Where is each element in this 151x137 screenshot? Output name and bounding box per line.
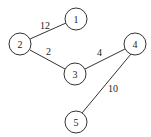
node-label-5: 5 — [74, 117, 79, 128]
edge-weight-4-5: 10 — [108, 83, 118, 94]
edge-4-5 — [82, 54, 131, 113]
edge-weight-3-4: 4 — [97, 47, 102, 58]
node-4: 4 — [124, 33, 146, 55]
node-label-3: 3 — [73, 69, 78, 80]
node-label-4: 4 — [133, 39, 138, 50]
node-3: 3 — [64, 63, 86, 85]
edge-3-4 — [85, 49, 125, 69]
edge-weight-2-3: 2 — [46, 46, 51, 57]
node-2: 2 — [9, 33, 31, 55]
node-label-2: 2 — [18, 39, 23, 50]
edge-weight-2-1: 12 — [40, 20, 50, 31]
node-1: 1 — [65, 8, 87, 30]
weighted-graph: 12 2 4 10 1 2 3 4 5 — [0, 0, 151, 137]
node-5: 5 — [65, 111, 87, 133]
node-label-1: 1 — [74, 14, 79, 25]
